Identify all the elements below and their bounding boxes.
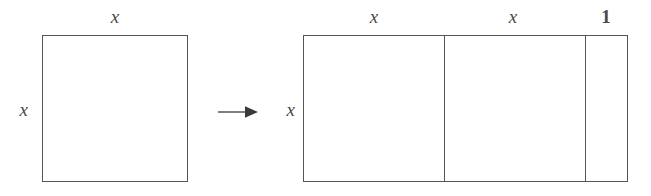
right-rectangle-divider-2 (585, 35, 586, 182)
left-square-top-label: x (111, 7, 119, 26)
left-square (42, 35, 188, 182)
right-rectangle (303, 35, 628, 182)
left-square-side-label: x (20, 99, 28, 118)
right-rectangle-side-label: x (287, 99, 295, 118)
right-rectangle-divider-1 (444, 35, 445, 182)
right-rectangle-segment-2-label: 1 (601, 7, 611, 26)
right-arrow-icon (218, 102, 262, 122)
right-rectangle-segment-0-label: x (370, 7, 378, 26)
right-rectangle-segment-1-label: x (509, 7, 517, 26)
area-model-figure: x x x x x 1 (0, 0, 651, 196)
